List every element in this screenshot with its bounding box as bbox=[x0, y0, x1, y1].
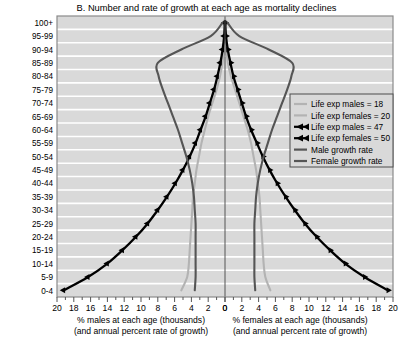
y-axis-tick-label: 35-39 bbox=[32, 193, 53, 202]
y-axis-tick-label: 5-9 bbox=[41, 273, 53, 282]
x-axis-tick-label: 6 bbox=[273, 303, 278, 313]
x-axis-tick-label: 12 bbox=[321, 303, 331, 313]
legend-label: Life exp females = 20 bbox=[311, 111, 390, 121]
x-axis-tick-label: 10 bbox=[304, 303, 314, 313]
y-axis-tick-label: 30-34 bbox=[32, 206, 53, 215]
x-axis-label-left-line2: (and annual percent rate of growth) bbox=[74, 326, 208, 336]
x-axis-ticks bbox=[57, 297, 393, 302]
chart-figure: B. Number and rate of growth at each age… bbox=[0, 0, 413, 344]
y-axis-tick-label: 100+ bbox=[35, 19, 54, 28]
chart-legend[interactable]: Life exp males = 18Life exp females = 20… bbox=[290, 94, 393, 167]
y-axis-tick-label: 45-49 bbox=[32, 166, 53, 175]
x-axis-tick-label: 18 bbox=[371, 303, 381, 313]
y-axis-tick-label: 20-24 bbox=[32, 233, 53, 242]
y-axis-tick-label: 40-44 bbox=[32, 179, 53, 188]
x-axis-tick-label: 6 bbox=[172, 303, 177, 313]
legend-label: Life exp females = 50 bbox=[311, 133, 390, 143]
legend-label: Female growth rate bbox=[311, 156, 383, 166]
x-axis-tick-label: 8 bbox=[155, 303, 160, 313]
x-axis-tick-label: 2 bbox=[206, 303, 211, 313]
y-axis-tick-label: 85-89 bbox=[32, 59, 53, 68]
y-axis-tick-label: 80-84 bbox=[32, 72, 53, 81]
x-axis-tick-label: 12 bbox=[119, 303, 129, 313]
y-axis-tick-label: 75-79 bbox=[32, 86, 53, 95]
x-axis-tick-label: 20 bbox=[52, 303, 62, 313]
chart-title: B. Number and rate of growth at each age… bbox=[77, 3, 337, 13]
x-axis-tick-label: 8 bbox=[290, 303, 295, 313]
x-axis-label-left-line1: % males at each age (thousands) bbox=[77, 315, 205, 325]
x-axis-tick-label: 14 bbox=[103, 303, 113, 313]
y-axis-tick-label: 25-29 bbox=[32, 220, 53, 229]
legend-label: Life exp males = 47 bbox=[311, 122, 384, 132]
y-axis-tick-label: 70-74 bbox=[32, 99, 53, 108]
y-axis-tick-label: 15-19 bbox=[32, 246, 53, 255]
x-axis-label-right-line2: (and annual percent rate of growth) bbox=[233, 326, 367, 336]
x-axis-tick-label: 14 bbox=[338, 303, 348, 313]
y-axis-tick-label: 50-54 bbox=[32, 153, 53, 162]
x-axis-tick-label: 4 bbox=[189, 303, 194, 313]
x-axis-tick-label: 0 bbox=[223, 303, 228, 313]
x-axis-tick-label: 4 bbox=[256, 303, 261, 313]
x-axis-tick-label: 10 bbox=[136, 303, 146, 313]
y-axis-tick-label: 60-64 bbox=[32, 126, 53, 135]
x-axis-tick-label: 2 bbox=[239, 303, 244, 313]
legend-label: Male growth rate bbox=[311, 145, 373, 155]
x-axis-tick-labels: 0246810121416182002468101214161820 bbox=[52, 303, 398, 313]
x-axis-label-right-line1: % females at each age (thousands) bbox=[232, 315, 367, 325]
population-pyramid-chart: B. Number and rate of growth at each age… bbox=[0, 0, 413, 344]
y-axis-tick-label: 0-4 bbox=[41, 287, 53, 296]
y-axis-tick-labels: 0-45-910-1415-1920-2425-2930-3435-3940-4… bbox=[32, 19, 53, 296]
y-axis-tick-label: 10-14 bbox=[32, 260, 53, 269]
legend-label: Life exp males = 18 bbox=[311, 99, 384, 109]
y-axis-tick-label: 95-99 bbox=[32, 32, 53, 41]
x-axis-tick-label: 18 bbox=[69, 303, 79, 313]
x-axis-tick-label: 16 bbox=[86, 303, 96, 313]
x-axis-tick-label: 20 bbox=[388, 303, 398, 313]
y-axis-tick-label: 65-69 bbox=[32, 113, 53, 122]
y-axis-tick-label: 55-59 bbox=[32, 139, 53, 148]
x-axis-tick-label: 16 bbox=[355, 303, 365, 313]
y-axis-tick-label: 90-94 bbox=[32, 46, 53, 55]
